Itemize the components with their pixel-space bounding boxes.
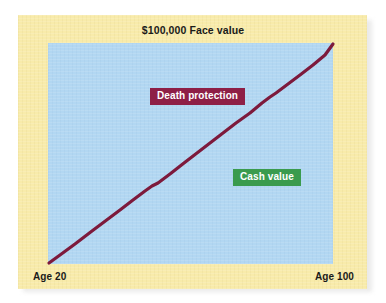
- chart-title: $100,000 Face value: [0, 24, 386, 36]
- axis-label-start: Age 20: [33, 271, 66, 282]
- plot-area: [48, 43, 333, 264]
- insurance-value-chart: $100,000 Face value Death protection Cas…: [0, 0, 386, 303]
- axis-label-end: Age 100: [315, 271, 354, 282]
- death-protection-annotation: Death protection: [150, 88, 245, 105]
- cash-value-annotation: Cash value: [233, 169, 301, 186]
